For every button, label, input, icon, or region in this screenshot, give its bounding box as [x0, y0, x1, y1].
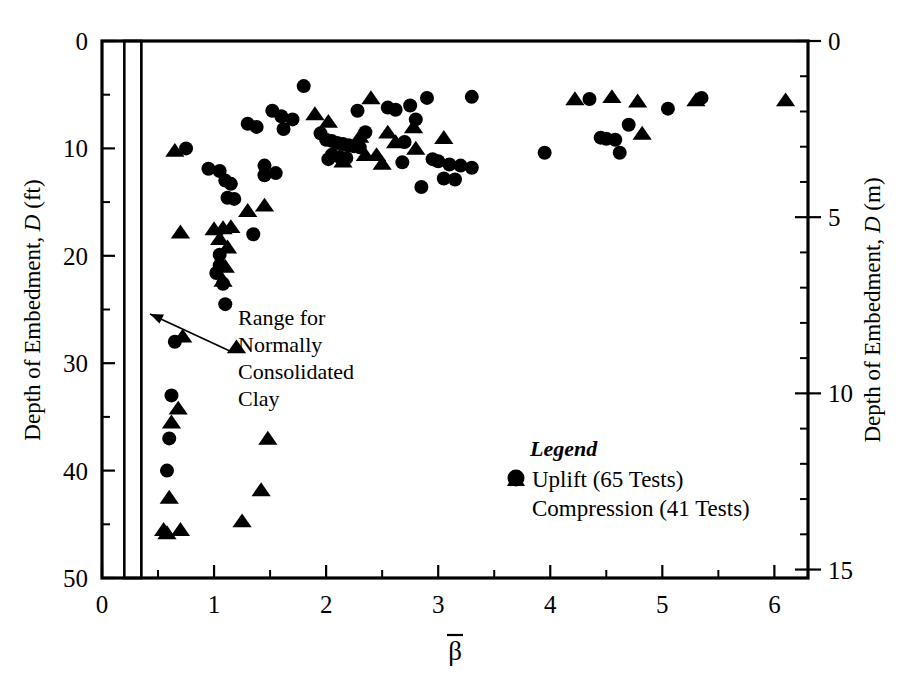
- data-point-compression: [319, 114, 338, 128]
- annotation-line-3: Clay: [238, 386, 280, 411]
- x-axis-title-symbol: β: [448, 636, 462, 666]
- x-tick-label: 1: [208, 591, 221, 618]
- annotation-text-group: Range for Normally Consolidated Clay: [238, 305, 354, 411]
- scatter-plot: 012345601020304050051015 Depth of Embedm…: [0, 0, 908, 689]
- data-point-uplift: [227, 192, 241, 206]
- data-point-uplift: [224, 177, 238, 191]
- x-tick-label: 3: [432, 591, 445, 618]
- series-uplift: [160, 79, 709, 477]
- data-point-uplift: [395, 155, 409, 169]
- annotation-arrow: [150, 314, 232, 352]
- y-right-tick-label: 0: [828, 28, 841, 55]
- data-point-uplift: [538, 146, 552, 160]
- x-tick-label: 6: [768, 591, 781, 618]
- y-right-tick-label: 5: [828, 204, 841, 231]
- data-point-compression: [160, 490, 179, 504]
- x-tick-label: 0: [96, 591, 109, 618]
- left-axis-title: Depth of Embedment, D (ft): [20, 179, 45, 440]
- legend-label-1: Compression (41 Tests): [532, 496, 750, 521]
- data-point-uplift: [257, 159, 271, 173]
- data-point-compression: [162, 415, 181, 429]
- y-right-tick-label: 15: [828, 557, 853, 584]
- x-tick-label: 2: [320, 591, 333, 618]
- data-point-uplift: [414, 180, 428, 194]
- data-point-uplift: [162, 431, 176, 445]
- x-tick-label: 4: [544, 591, 557, 618]
- data-point-uplift: [218, 297, 232, 311]
- y-left-tick-label: 40: [63, 458, 88, 485]
- data-point-uplift: [246, 227, 260, 241]
- svg-text:Depth of Embedment, D (m): Depth of Embedment, D (m): [860, 177, 885, 442]
- data-point-uplift: [351, 104, 365, 118]
- data-point-compression: [255, 198, 274, 212]
- data-point-compression: [776, 92, 795, 106]
- legend: Legend Uplift (65 Tests) Compression (41…: [507, 436, 750, 521]
- data-point-uplift: [277, 122, 291, 136]
- data-point-compression: [305, 106, 324, 120]
- data-point-uplift: [465, 161, 479, 175]
- data-point-compression: [361, 90, 380, 104]
- x-axis-title: β: [447, 635, 463, 666]
- right-axis-title: Depth of Embedment, D (m): [860, 177, 885, 442]
- legend-title: Legend: [529, 436, 598, 461]
- data-point-compression: [238, 203, 257, 217]
- annotation-line-1: Normally: [238, 332, 322, 357]
- left-axis-title-unit: (ft): [20, 179, 45, 208]
- y-left-tick-label: 0: [76, 28, 89, 55]
- data-point-uplift: [582, 92, 596, 106]
- data-point-compression: [565, 91, 584, 105]
- data-point-compression: [251, 482, 270, 496]
- data-point-uplift: [465, 90, 479, 104]
- data-point-uplift: [241, 117, 255, 131]
- annotation-line-2: Consolidated: [238, 359, 354, 384]
- data-point-uplift: [403, 98, 417, 112]
- figure-container: 012345601020304050051015 Depth of Embedm…: [0, 0, 908, 689]
- data-point-compression: [602, 89, 621, 103]
- svg-text:Depth of Embedment, D (ft): Depth of Embedment, D (ft): [20, 179, 45, 440]
- legend-label-0: Uplift (65 Tests): [532, 467, 683, 492]
- right-axis-title-main: Depth of Embedment,: [860, 239, 885, 443]
- data-point-compression: [169, 401, 188, 415]
- y-right-tick-label: 10: [828, 380, 853, 407]
- nc-clay-range-band: [124, 0, 141, 631]
- data-point-uplift: [420, 91, 434, 105]
- right-axis-title-unit: (m): [860, 177, 885, 210]
- data-point-compression: [232, 513, 251, 527]
- data-point-compression: [258, 431, 277, 445]
- data-point-compression: [171, 522, 190, 536]
- data-point-compression: [434, 130, 453, 144]
- data-point-uplift: [164, 388, 178, 402]
- y-left-tick-label: 50: [63, 565, 88, 592]
- data-point-compression: [628, 93, 647, 107]
- y-left-tick-label: 20: [63, 243, 88, 270]
- data-point-uplift: [622, 118, 636, 132]
- left-axis-title-main: Depth of Embedment,: [20, 237, 45, 441]
- data-point-compression: [171, 225, 190, 239]
- annotation-line-0: Range for: [238, 305, 326, 330]
- left-axis-title-variable: D: [20, 214, 45, 232]
- data-point-uplift: [608, 133, 622, 147]
- data-point-uplift: [661, 102, 675, 116]
- data-point-uplift: [389, 103, 403, 117]
- data-point-uplift: [160, 464, 174, 478]
- right-axis-title-variable: D: [860, 216, 885, 234]
- data-point-uplift: [448, 173, 462, 187]
- data-point-uplift: [321, 152, 335, 166]
- data-point-compression: [633, 126, 652, 140]
- y-left-tick-label: 30: [63, 350, 88, 377]
- y-left-tick-label: 10: [63, 135, 88, 162]
- data-point-uplift: [297, 79, 311, 93]
- data-point-uplift: [613, 146, 627, 160]
- x-tick-label: 5: [656, 591, 669, 618]
